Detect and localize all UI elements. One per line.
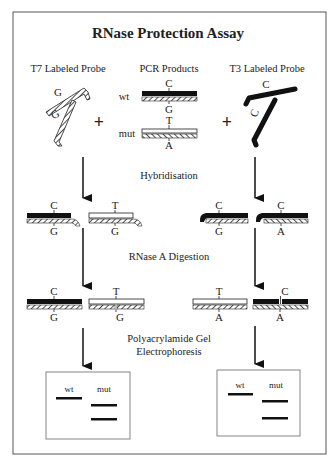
hybrid-left-mut-top-base: T: [112, 199, 119, 211]
gel-left-band-mut-1: [91, 404, 117, 407]
hybrid-right-mut-bottom-base: A: [277, 225, 285, 237]
stage-gel-line2: Electrophoresis: [136, 346, 201, 357]
pcr-mut-label: mut: [119, 128, 135, 139]
diagram-title: RNase Protection Assay: [92, 25, 245, 41]
gel-left: wt mut: [46, 372, 130, 439]
header-t7-probe: T7 Labeled Probe: [30, 63, 106, 74]
plus-sign-left: +: [94, 112, 104, 132]
digest-right-t-base: T: [216, 285, 223, 297]
hybrid-right-wt-bottom-base: G: [215, 225, 223, 237]
gel-left-lane-wt: wt: [65, 384, 74, 394]
stage-digestion: RNase A Digestion: [129, 251, 210, 262]
header-t3-probe: T3 Labeled Probe: [229, 63, 305, 74]
stage-gel-line1: Polyacrylamide Gel: [127, 333, 211, 344]
digest-right-a-base-2: A: [276, 311, 284, 323]
gel-right-lane-wt: wt: [236, 380, 245, 390]
pcr-wt-label: wt: [119, 91, 130, 102]
gel-right-lane-mut: mut: [269, 380, 284, 390]
digest-right-c-base: C: [281, 285, 288, 297]
gel-left-band-mut-2: [91, 418, 117, 421]
hybrid-left-wt-bottom-base: G: [50, 225, 58, 237]
digest-left-wt-bottom-base: G: [50, 311, 58, 323]
hybrid-right-wt-top-base: C: [215, 199, 222, 211]
digest-left-mut-top-base: T: [113, 285, 120, 297]
gel-left-band-wt: [56, 397, 82, 400]
t3-probe-base-1: C: [262, 78, 269, 90]
pcr-wt-top-base: C: [165, 77, 172, 89]
header-pcr-products: PCR Products: [139, 63, 198, 74]
gel-right-band-mut-1: [262, 400, 288, 403]
pcr-mut-top-base: T: [166, 114, 173, 126]
rnase-protection-assay-diagram: RNase Protection Assay T7 Labeled Probe …: [0, 0, 335, 461]
digest-left-wt-top-base: C: [50, 285, 57, 297]
stage-hybridisation: Hybridisation: [140, 170, 198, 181]
plus-sign-right: +: [222, 112, 232, 132]
gel-left-lane-mut: mut: [97, 384, 112, 394]
gel-right-band-wt: [228, 393, 253, 396]
digest-right-a-base-1: A: [215, 311, 223, 323]
digest-left-mut-bottom-base: G: [116, 311, 124, 323]
t7-probe-base-1: G: [54, 86, 62, 98]
pcr-mut-bottom-base: A: [165, 139, 173, 151]
hybrid-right-mut-top-base: C: [277, 199, 284, 211]
hybrid-left-mut-bottom-base: G: [111, 225, 119, 237]
gel-right: wt mut: [217, 370, 300, 436]
gel-right-band-mut-2: [262, 417, 288, 420]
hybrid-left-wt-top-base: C: [50, 199, 57, 211]
